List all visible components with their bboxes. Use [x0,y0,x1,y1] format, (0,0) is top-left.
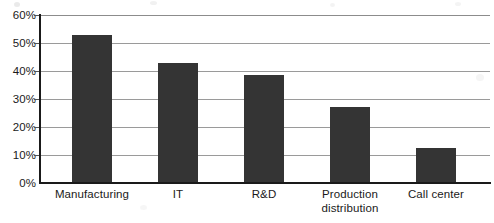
scan-artifact [330,3,335,7]
y-axis-line [39,14,41,184]
bar-call-center [416,148,456,183]
scan-artifact [455,2,461,6]
y-tick-label-40: 40% [0,66,36,78]
gridline-60 [40,15,490,16]
y-tick-label-30: 30% [0,94,36,106]
bar-manufacturing [72,35,112,183]
y-tick-label-10: 10% [0,150,36,162]
y-tick-label-60: 60% [0,10,36,22]
bar-rd [244,75,284,183]
scan-artifact [150,1,157,5]
x-axis-category-labels: Manufacturing IT R&D Production distribu… [40,188,490,223]
x-axis-line [39,182,491,184]
x-label-call-center: Call center [381,188,491,202]
y-tick-label-0: 0% [0,178,36,190]
x-label-call-center-line1: Call center [381,188,491,202]
y-axis-tick-labels: 60% 50% 40% 30% 20% 10% 0% [0,0,36,223]
y-tick-label-20: 20% [0,122,36,134]
bar-it [158,63,198,183]
bar-chart: 60% 50% 40% 30% 20% 10% 0% Manufacturing… [0,0,494,223]
bar-production-distribution [330,107,370,183]
y-tick-label-50: 50% [0,38,36,50]
plot-area [40,15,490,183]
x-label-production-distribution-line2: distribution [295,202,405,216]
